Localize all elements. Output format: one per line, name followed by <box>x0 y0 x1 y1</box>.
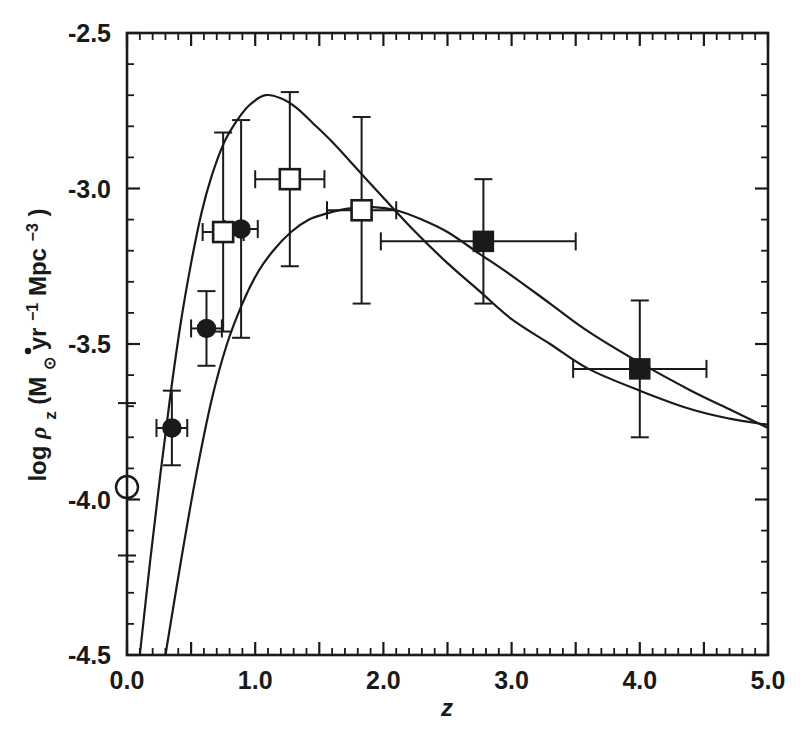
data-point-filled-square[interactable] <box>573 300 706 437</box>
data-points <box>116 92 706 555</box>
axis-ticks <box>127 33 768 655</box>
x-tick-label: 1.0 <box>238 666 273 694</box>
star-formation-rate-density-chart: log ρ z (M ⊙ yr −1 Mpc −3 ) z 0.01.02.03… <box>0 0 805 754</box>
svg-text:log ρ: log ρ z (M ⊙ yr −1 Mpc −3 ) <box>24 208 60 481</box>
y-axis-sun-symbol: ⊙ <box>41 357 58 370</box>
data-point-open-square[interactable] <box>327 117 396 304</box>
x-tick-label: 5.0 <box>751 666 786 694</box>
y-axis-log-text: log <box>24 446 51 482</box>
model-curves <box>140 95 768 655</box>
open-square-marker[interactable] <box>352 200 372 220</box>
filled-square-marker[interactable] <box>473 231 493 251</box>
data-point-filled-square[interactable] <box>381 179 576 303</box>
filled-circle-marker[interactable] <box>232 220 250 238</box>
x-tick-label: 4.0 <box>622 666 657 694</box>
x-axis-title: z <box>440 694 453 721</box>
filled-circle-marker[interactable] <box>197 319 215 337</box>
x-tick-label: 0.0 <box>110 666 145 694</box>
y-axis-yr-text: yr <box>24 328 51 351</box>
figure-panel: log ρ z (M ⊙ yr −1 Mpc −3 ) z 0.01.02.03… <box>0 0 805 754</box>
plot-frame <box>127 33 768 655</box>
rho-dot-accent <box>25 348 31 354</box>
data-point-filled-circle[interactable] <box>156 391 187 466</box>
open-square-marker[interactable] <box>213 222 233 242</box>
y-axis-mpc-text: Mpc <box>24 248 51 296</box>
model-curve-model-lower <box>165 207 768 655</box>
y-tick-label: -4.5 <box>68 641 111 669</box>
y-tick-label: -4.0 <box>68 486 111 514</box>
y-axis-rho-symbol: ρ <box>25 427 51 440</box>
x-tick-label: 2.0 <box>366 666 401 694</box>
y-axis-title: log ρ z (M ⊙ yr −1 Mpc −3 ) <box>24 208 60 481</box>
model-curve-model-upper <box>140 95 768 655</box>
data-point-open-square[interactable] <box>255 92 324 266</box>
y-axis-yr-exponent: −1 <box>24 303 41 321</box>
open-square-marker[interactable] <box>280 169 300 189</box>
data-point-filled-circle[interactable] <box>191 291 222 366</box>
y-tick-label: -3.0 <box>68 175 111 203</box>
filled-square-marker[interactable] <box>630 359 650 379</box>
y-axis-unit-open: (M <box>24 377 51 405</box>
x-tick-label: 3.0 <box>494 666 529 694</box>
y-axis-unit-close: ) <box>24 208 51 216</box>
data-point-open-square[interactable] <box>203 133 244 332</box>
y-tick-label: -3.5 <box>68 330 111 358</box>
y-axis-rho-subscript: z <box>41 411 60 420</box>
y-axis-mpc-exponent: −3 <box>24 223 41 241</box>
filled-circle-marker[interactable] <box>163 419 181 437</box>
y-tick-label: -2.5 <box>68 19 111 47</box>
